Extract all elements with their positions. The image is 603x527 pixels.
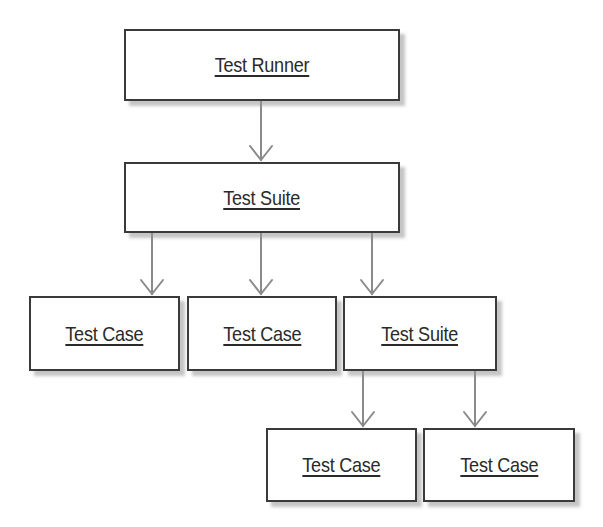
test-suite-label: Test Suite xyxy=(224,186,301,210)
test-case-node-1: Test Case xyxy=(29,296,180,371)
arrow-runner-to-suite xyxy=(250,101,272,160)
test-case-label: Test Case xyxy=(66,322,144,346)
test-suite-node: Test Suite xyxy=(124,162,400,233)
test-case-label: Test Case xyxy=(223,322,301,346)
arrow-suite-to-case-1 xyxy=(141,233,163,294)
test-case-node-2: Test Case xyxy=(187,296,337,371)
arrow-suite-to-suite-2 xyxy=(361,233,383,294)
test-suite-label: Test Suite xyxy=(382,322,459,346)
test-suite-node-2: Test Suite xyxy=(343,296,497,371)
test-case-node-4: Test Case xyxy=(423,428,575,502)
test-hierarchy-diagram: Test Runner Test Suite Test Case Test Ca… xyxy=(0,0,603,527)
arrow-suite-2-to-case-3 xyxy=(352,371,374,426)
test-case-node-3: Test Case xyxy=(266,428,417,502)
arrow-suite-to-case-2 xyxy=(250,233,272,294)
arrow-suite-2-to-case-4 xyxy=(464,371,486,426)
test-runner-label: Test Runner xyxy=(215,53,310,77)
test-case-label: Test Case xyxy=(303,453,381,477)
test-case-label: Test Case xyxy=(460,453,538,477)
test-runner-node: Test Runner xyxy=(124,29,400,101)
